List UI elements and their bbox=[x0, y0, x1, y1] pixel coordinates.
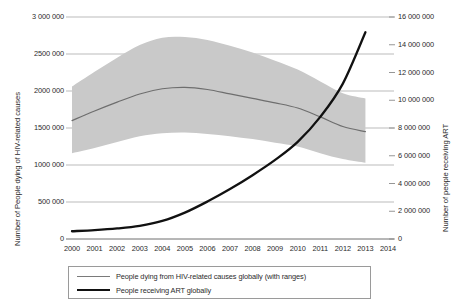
legend-swatch-deaths bbox=[77, 276, 110, 277]
y-axis-right-tick: 2 000 000 bbox=[398, 206, 430, 215]
y-axis-right-tick: 4 000 000 bbox=[398, 179, 430, 188]
x-axis-tick: 2014 bbox=[375, 244, 401, 253]
legend-label-deaths: People dying from HIV-related causes glo… bbox=[116, 272, 306, 281]
y-axis-right-tick: 8 000 000 bbox=[398, 123, 430, 132]
y-axis-right-tick: 0 bbox=[398, 234, 402, 243]
y-axis-right-tick: 14 000 000 bbox=[398, 40, 434, 49]
y-axis-left-tick: 2000 000 bbox=[8, 86, 64, 95]
legend-swatch-art bbox=[77, 289, 110, 291]
chart-legend: People dying from HIV-related causes glo… bbox=[68, 266, 371, 299]
uncertainty-range-band bbox=[72, 37, 365, 163]
y-axis-right-tick: 16 000 000 bbox=[398, 12, 434, 21]
y-axis-right-tick: 12 000 000 bbox=[398, 68, 434, 77]
legend-item-deaths: People dying from HIV-related causes glo… bbox=[77, 270, 306, 282]
y-axis-right-tick: 6 000 000 bbox=[398, 151, 430, 160]
y-axis-right-tick: 10 000 000 bbox=[398, 95, 434, 104]
legend-label-art: People receiving ART globally bbox=[116, 286, 211, 295]
y-axis-left-tick: 3 000 000 bbox=[8, 12, 64, 21]
y-axis-left-tick: 1000 000 bbox=[8, 160, 64, 169]
y-axis-left-tick: 2500 000 bbox=[8, 49, 64, 58]
plot-area bbox=[0, 0, 451, 305]
legend-item-art: People receiving ART globally bbox=[77, 284, 211, 296]
y-axis-left-tick: 1500 000 bbox=[8, 123, 64, 132]
y-axis-left-tick: 0 bbox=[8, 234, 64, 243]
chart-container: Number of People dying of HIV-related ca… bbox=[0, 0, 451, 305]
y-axis-left-tick: 500 000 bbox=[8, 197, 64, 206]
